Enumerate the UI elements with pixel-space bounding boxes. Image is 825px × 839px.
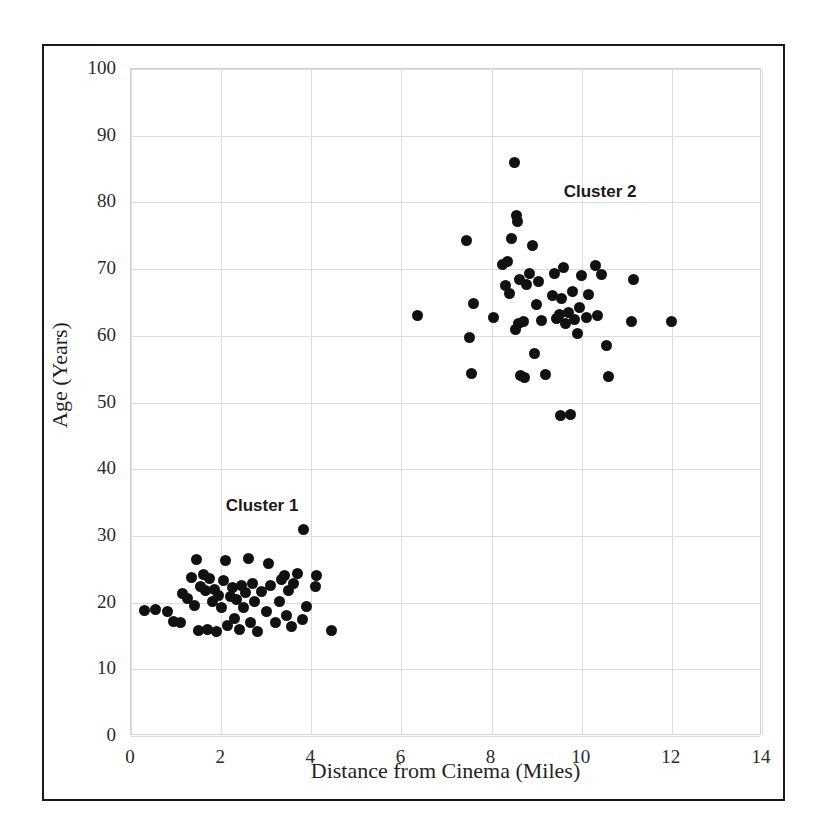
scatter-point xyxy=(249,596,260,607)
scatter-point xyxy=(555,410,566,421)
gridline-horizontal xyxy=(131,536,760,537)
y-axis-tick-label: 40 xyxy=(44,458,116,477)
scatter-point xyxy=(518,316,529,327)
scatter-point xyxy=(540,369,551,380)
scatter-point xyxy=(150,604,161,615)
scatter-point xyxy=(204,573,215,584)
scatter-point xyxy=(603,371,614,382)
cluster-label: Cluster 2 xyxy=(564,182,637,202)
scatter-point xyxy=(596,269,607,280)
gridline-vertical xyxy=(672,69,673,734)
gridline-vertical xyxy=(311,69,312,734)
scatter-point xyxy=(536,315,547,326)
scatter-point xyxy=(512,216,523,227)
figure-frame: Age (Years) Distance from Cinema (Miles)… xyxy=(42,44,785,801)
scatter-point xyxy=(252,626,263,637)
scatter-point xyxy=(263,558,274,569)
scatter-point xyxy=(576,270,587,281)
scatter-point xyxy=(286,621,297,632)
scatter-point xyxy=(326,625,337,636)
scatter-point xyxy=(583,289,594,300)
scatter-point xyxy=(234,624,245,635)
scatter-point xyxy=(265,580,276,591)
scatter-point xyxy=(504,288,515,299)
x-axis-tick-label: 2 xyxy=(195,747,245,766)
scatter-point xyxy=(292,568,303,579)
gridline-horizontal xyxy=(131,336,760,337)
y-axis-tick-label: 100 xyxy=(44,58,116,77)
cluster-label: Cluster 1 xyxy=(226,496,299,516)
scatter-point xyxy=(488,312,499,323)
scatter-point xyxy=(261,606,272,617)
scatter-point xyxy=(565,409,576,420)
scatter-point xyxy=(220,555,231,566)
x-axis-tick-label: 8 xyxy=(466,747,516,766)
gridline-vertical xyxy=(492,69,493,734)
scatter-point xyxy=(297,614,308,625)
x-axis-tick-label: 14 xyxy=(736,747,786,766)
scatter-point xyxy=(558,262,569,273)
scatter-point xyxy=(572,328,583,339)
scatter-point xyxy=(240,587,251,598)
y-axis-tick-label: 90 xyxy=(44,125,116,144)
gridline-horizontal xyxy=(131,469,760,470)
y-axis-title: Age (Years) xyxy=(47,275,73,475)
scatter-point xyxy=(298,524,309,535)
plot-area: Cluster 1Cluster 2 xyxy=(130,68,761,735)
scatter-point xyxy=(574,302,585,313)
y-axis-tick-label: 10 xyxy=(44,658,116,677)
scatter-point xyxy=(531,299,542,310)
scatter-point xyxy=(466,368,477,379)
scatter-point xyxy=(461,235,472,246)
y-axis-tick-label: 80 xyxy=(44,191,116,210)
scatter-point xyxy=(191,554,202,565)
x-axis-tick-label: 0 xyxy=(105,747,155,766)
y-axis-tick-label: 50 xyxy=(44,392,116,411)
gridline-horizontal xyxy=(131,69,760,70)
gridline-vertical xyxy=(131,69,132,734)
scatter-point xyxy=(243,553,254,564)
gridline-horizontal xyxy=(131,269,760,270)
y-axis-tick-label: 0 xyxy=(44,725,116,744)
scatter-point xyxy=(569,314,580,325)
y-axis-tick-label: 20 xyxy=(44,592,116,611)
scatter-point xyxy=(139,605,150,616)
scatter-point xyxy=(274,596,285,607)
scatter-point xyxy=(626,316,637,327)
scatter-point xyxy=(527,240,538,251)
gridline-horizontal xyxy=(131,669,760,670)
scatter-point xyxy=(270,617,281,628)
scatter-point xyxy=(464,332,475,343)
scatter-point xyxy=(216,602,227,613)
scatter-point xyxy=(311,570,322,581)
gridline-horizontal xyxy=(131,736,760,737)
scatter-point xyxy=(238,602,249,613)
gridline-vertical xyxy=(221,69,222,734)
scatter-point xyxy=(175,617,186,628)
scatter-point xyxy=(502,256,513,267)
scatter-point xyxy=(189,600,200,611)
scatter-point xyxy=(592,310,603,321)
scatter-point xyxy=(468,298,479,309)
scatter-point xyxy=(666,316,677,327)
scatter-point xyxy=(186,572,197,583)
scatter-point xyxy=(281,610,292,621)
scatter-point xyxy=(567,286,578,297)
gridline-vertical xyxy=(582,69,583,734)
scatter-point xyxy=(288,578,299,589)
scatter-point xyxy=(581,312,592,323)
scatter-point xyxy=(310,581,321,592)
gridline-horizontal xyxy=(131,136,760,137)
gridline-vertical xyxy=(762,69,763,734)
scatter-point xyxy=(521,279,532,290)
scatter-point xyxy=(529,348,540,359)
scatter-point xyxy=(533,276,544,287)
scatter-point xyxy=(556,293,567,304)
x-axis-tick-label: 4 xyxy=(285,747,335,766)
x-axis-tick-label: 10 xyxy=(556,747,606,766)
x-axis-tick-label: 12 xyxy=(646,747,696,766)
scatter-point xyxy=(412,310,423,321)
gridline-horizontal xyxy=(131,403,760,404)
scatter-point xyxy=(509,157,520,168)
y-axis-tick-label: 60 xyxy=(44,325,116,344)
